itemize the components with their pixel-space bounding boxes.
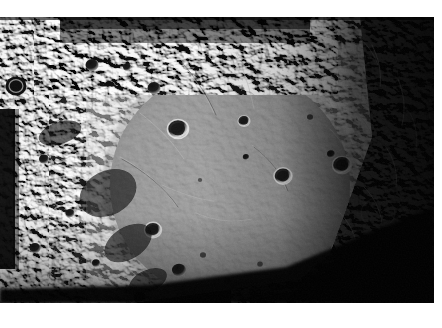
page-canvas <box>0 0 442 328</box>
page-margin-top <box>0 0 442 17</box>
photo-svg <box>0 17 434 303</box>
page-margin-right <box>434 0 442 328</box>
planetary-photograph <box>0 17 434 303</box>
page-margin-bottom <box>0 303 442 328</box>
scan-edge-top <box>0 17 434 20</box>
film-grain-overlay-secondary <box>0 17 434 303</box>
